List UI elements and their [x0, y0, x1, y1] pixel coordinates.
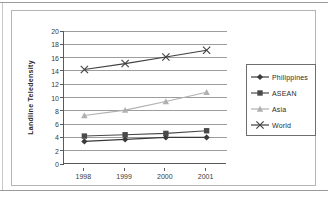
x-axis-tick — [205, 168, 206, 171]
legend-label: Asia — [272, 106, 286, 113]
legend-marker-triangle-icon — [250, 103, 270, 115]
data-marker-square — [257, 90, 262, 95]
legend-item-asia[interactable]: Asia — [250, 101, 312, 117]
y-axis-tick-label: 2 — [55, 147, 59, 154]
data-marker-diamond — [257, 74, 263, 80]
data-marker-square — [82, 133, 87, 138]
series-line — [84, 50, 206, 69]
chart-legend: PhilippinesASEANAsiaWorld — [246, 64, 316, 136]
data-marker-triangle — [203, 89, 209, 95]
legend-label: World — [272, 122, 291, 129]
y-axis-tick-label: 6 — [55, 121, 59, 128]
legend-label: ASEAN — [272, 90, 297, 97]
data-marker-square — [122, 132, 127, 137]
x-axis-tick-label: 2001 — [198, 173, 214, 180]
y-axis-tick-label: 10 — [51, 94, 59, 101]
document-rule-top — [0, 2, 328, 3]
series-world — [81, 47, 210, 73]
x-axis-tick-label: 1998 — [76, 173, 92, 180]
legend-item-philippines[interactable]: Philippines — [250, 69, 312, 85]
y-axis-title: Landline Teledensity — [26, 31, 36, 164]
chart-frame: Landline Teledensity 02468101214161820 1… — [11, 10, 316, 186]
y-axis-tick-label: 12 — [51, 81, 59, 88]
document-page: Landline Teledensity 02468101214161820 1… — [0, 0, 328, 205]
x-axis-tick — [164, 168, 165, 171]
legend-item-world[interactable]: World — [250, 117, 312, 133]
legend-marker-square-icon — [250, 87, 270, 99]
series-layer — [64, 31, 227, 164]
series-line — [84, 131, 206, 136]
y-axis-tick-label: 16 — [51, 54, 59, 61]
legend-item-asean[interactable]: ASEAN — [250, 85, 312, 101]
legend-label: Philippines — [272, 74, 308, 81]
x-axis-tick-labels: 1998199920002001 — [63, 168, 226, 180]
y-axis-tick-labels: 02468101214161820 — [42, 31, 59, 164]
y-axis-tick-label: 20 — [51, 28, 59, 35]
y-axis-tick-label: 4 — [55, 134, 59, 141]
data-marker-square — [163, 131, 168, 136]
series-line — [84, 137, 206, 141]
legend-marker-x-icon — [250, 119, 270, 131]
x-axis-tick — [124, 168, 125, 171]
series-line — [84, 92, 206, 115]
legend-marker-diamond-icon — [250, 71, 270, 83]
y-axis-tick-label: 18 — [51, 41, 59, 48]
y-axis-tick-label: 14 — [51, 67, 59, 74]
data-marker-diamond — [204, 134, 210, 140]
y-axis-tick-label: 0 — [55, 161, 59, 168]
data-marker-square — [204, 128, 209, 133]
document-rule-bottom — [0, 190, 328, 191]
y-axis-tick-label: 8 — [55, 107, 59, 114]
plot-area — [63, 31, 226, 164]
x-axis-tick — [83, 168, 84, 171]
series-asia — [81, 89, 210, 118]
x-axis-tick-label: 1999 — [116, 173, 132, 180]
data-marker-diamond — [81, 138, 87, 144]
document-edge-left — [2, 3, 3, 190]
x-axis-tick-label: 2000 — [157, 173, 173, 180]
